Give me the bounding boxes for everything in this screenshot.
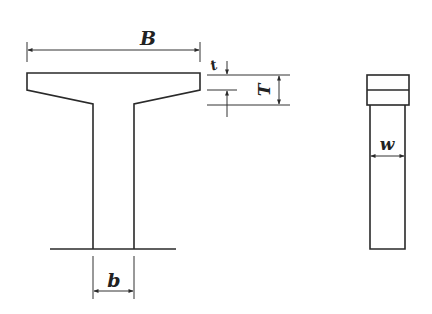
label-w: w [380,134,396,154]
label-b: b [107,269,120,291]
label-T: T [254,82,274,96]
side-view [367,75,409,249]
dimension-t-T: t T [207,56,290,117]
label-B: B [139,27,156,49]
t-beam-diagram: B t T b w [0,0,432,314]
label-t: t [208,56,220,73]
dimension-B: B [27,27,200,62]
t-beam-section [27,73,200,249]
dimension-w: w [371,134,404,156]
dimension-b: b [93,256,134,299]
